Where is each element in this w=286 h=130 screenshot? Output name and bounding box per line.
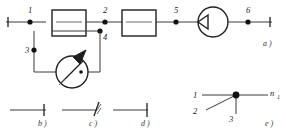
panel-b-caption: b ) [38,119,47,128]
node-label-3: 3 [24,45,29,55]
node-label-1: 1 [28,5,32,15]
panel-e-label-1: 1 [193,90,197,100]
source-symbol [198,7,228,37]
node-dot-3 [31,47,36,52]
left-terminal-cross-icon [6,17,46,27]
meter-symbol [56,50,88,88]
node-label-2: 2 [103,5,108,15]
block-2 [122,10,156,36]
block-1 [52,10,86,36]
node-dot-6 [245,19,250,24]
node-label-5: 5 [174,5,178,15]
panel-c-caption: c ) [89,119,98,128]
panel-e-node-label-sub: 1 [277,94,280,100]
panel-e: 1 2 3 n 1 e ) [193,88,280,128]
node-dot-5 [173,19,178,24]
panel-e-node-label: n [270,88,274,98]
panel-e-label-2: 2 [193,106,198,116]
panel-e-caption: e ) [265,119,274,128]
node-dot-1 [27,19,32,24]
panel-c: c ) [62,102,101,128]
panel-b: b ) [10,104,47,128]
panel-c-break-icon [94,102,99,116]
figure-root: 1 2 4 3 [0,0,286,130]
panel-d: d ) [113,103,150,128]
panel-e-node-dot [233,92,240,99]
node-label-6: 6 [246,5,251,15]
panel-a-caption: a ) [263,39,272,48]
panel-e-branch-2 [206,95,236,110]
node-label-4: 4 [103,32,108,42]
panel-a: 1 2 4 3 [6,5,272,88]
panel-d-caption: d ) [141,119,150,128]
node-dot-2 [102,19,107,24]
schematic-svg: 1 2 4 3 [0,0,286,130]
meter-terminal-dot [79,70,83,74]
panel-e-label-3: 3 [228,114,233,124]
